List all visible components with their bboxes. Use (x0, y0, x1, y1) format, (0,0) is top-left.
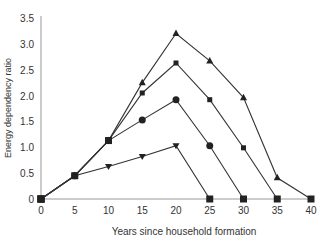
series-line-circle (41, 100, 244, 199)
circle-marker-icon (206, 142, 213, 149)
square-marker-icon (140, 90, 145, 95)
x-tick-label: 35 (272, 205, 284, 216)
y-tick-label: 3.0 (20, 39, 34, 50)
x-tick-label: 0 (38, 205, 44, 216)
x-tick-label: 10 (103, 205, 115, 216)
x-tick-label: 20 (170, 205, 182, 216)
y-tick-label: 3.5 (20, 13, 34, 24)
end-square-marker-icon (206, 196, 213, 203)
triangle-marker-icon (206, 57, 213, 64)
y-axis-label: Energy dependency ratio (3, 58, 13, 158)
x-tick-label: 40 (305, 205, 317, 216)
circle-marker-icon (139, 116, 146, 123)
end-square-marker-icon (308, 196, 315, 203)
end-square-marker-icon (38, 196, 45, 203)
x-tick-label: 5 (72, 205, 78, 216)
square-marker-icon (207, 97, 212, 102)
series-line-down-triangle (41, 146, 210, 199)
y-tick-label: 2.5 (20, 65, 34, 76)
square-marker-icon (241, 145, 246, 150)
y-tick-label: 1.0 (20, 142, 34, 153)
square-marker-icon (174, 60, 179, 65)
circle-marker-icon (173, 96, 180, 103)
y-tick-label: 1.5 (20, 116, 34, 127)
x-axis-label: Years since household formation (112, 226, 257, 237)
x-tick-label: 30 (238, 205, 250, 216)
y-tick-label: 0 (28, 194, 34, 205)
shared-square-marker-icon (105, 137, 112, 144)
energy-dependency-line-chart: 00.51.01.52.02.53.03.50510152025303540Ye… (0, 0, 327, 242)
shared-square-marker-icon (71, 172, 78, 179)
x-tick-label: 25 (204, 205, 216, 216)
triangle-marker-icon (173, 30, 180, 37)
end-square-marker-icon (274, 196, 281, 203)
x-tick-label: 15 (137, 205, 149, 216)
y-tick-label: 2.0 (20, 91, 34, 102)
end-square-marker-icon (240, 196, 247, 203)
y-tick-label: 0.5 (20, 168, 34, 179)
triangle-marker-icon (274, 174, 281, 181)
chart-svg: 00.51.01.52.02.53.03.50510152025303540Ye… (0, 0, 327, 242)
